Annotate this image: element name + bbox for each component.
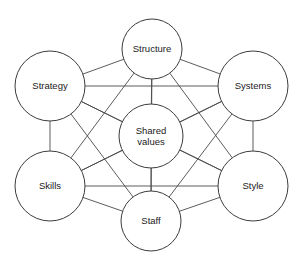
edge-skills-to-staff bbox=[83, 197, 123, 211]
node-circle-staff bbox=[121, 191, 181, 251]
node-circle-systems bbox=[218, 51, 288, 121]
edge-style-to-staff bbox=[179, 197, 220, 211]
node-circle-skills bbox=[15, 151, 85, 221]
edge-shared_values-to-skills bbox=[81, 150, 122, 170]
node-shared_values[interactable]: Sharedvalues bbox=[119, 104, 183, 168]
node-structure[interactable]: Structure bbox=[122, 19, 182, 79]
node-circle-shared_values bbox=[119, 104, 183, 168]
node-skills[interactable]: Skills bbox=[15, 151, 85, 221]
node-systems[interactable]: Systems bbox=[218, 51, 288, 121]
seven-s-diagram: StructureStrategySystemsSharedvaluesSkil… bbox=[0, 0, 302, 269]
diagram-canvas: StructureStrategySystemsSharedvaluesSkil… bbox=[0, 0, 302, 269]
edge-structure-to-systems bbox=[180, 59, 220, 74]
node-staff[interactable]: Staff bbox=[121, 191, 181, 251]
node-circle-style bbox=[218, 151, 288, 221]
edge-shared_values-to-style bbox=[180, 150, 222, 171]
node-style[interactable]: Style bbox=[218, 151, 288, 221]
edge-structure-to-strategy bbox=[83, 59, 124, 74]
node-layer: StructureStrategySystemsSharedvaluesSkil… bbox=[15, 19, 288, 251]
node-strategy[interactable]: Strategy bbox=[15, 51, 85, 121]
node-circle-structure bbox=[122, 19, 182, 79]
node-circle-strategy bbox=[15, 51, 85, 121]
